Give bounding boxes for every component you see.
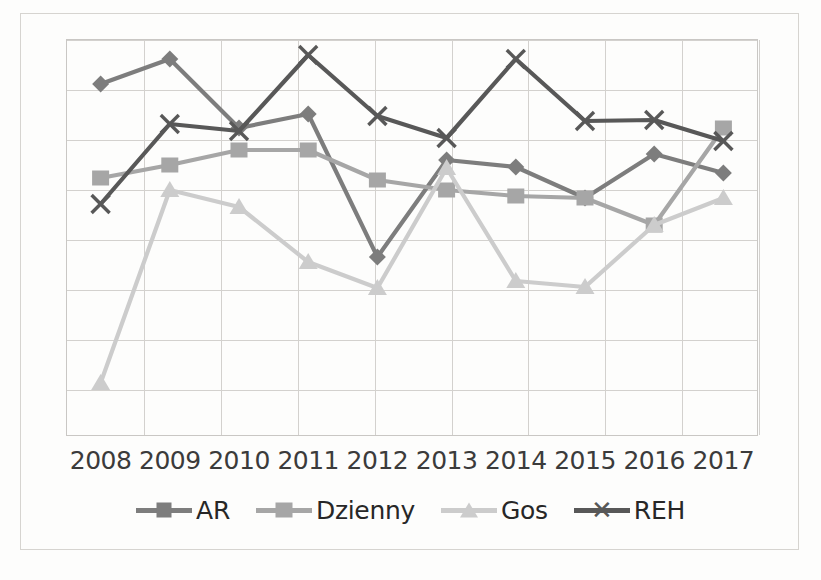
data-point-marker xyxy=(507,159,524,176)
square-marker xyxy=(256,500,312,520)
data-point-marker xyxy=(92,195,110,213)
series-line xyxy=(101,55,724,204)
data-point-marker xyxy=(299,46,317,64)
x-axis-tick-2010: 2010 xyxy=(208,446,270,475)
data-point-marker xyxy=(300,106,317,123)
x-axis-tick-2013: 2013 xyxy=(416,446,478,475)
legend-item-dzienny[interactable]: Dzienny xyxy=(256,496,415,525)
data-point-marker xyxy=(438,183,455,198)
data-point-marker xyxy=(91,374,110,390)
legend-label: Gos xyxy=(501,496,548,525)
data-point-marker xyxy=(577,191,594,206)
data-point-marker xyxy=(160,181,179,197)
data-point-marker xyxy=(92,76,109,93)
data-point-marker xyxy=(161,158,178,173)
legend-label: REH xyxy=(634,496,685,525)
legend-item-gos[interactable]: Gos xyxy=(441,496,548,525)
series-ar xyxy=(92,51,732,266)
series-line xyxy=(101,168,724,383)
data-point-marker xyxy=(715,165,732,182)
legend-label: AR xyxy=(196,496,230,525)
data-point-marker xyxy=(92,171,109,186)
data-point-marker xyxy=(714,189,733,205)
data-point-marker xyxy=(231,143,248,158)
chart-legend: ARDziennyGos✕REH xyxy=(0,492,821,528)
series-gos xyxy=(91,159,733,390)
triangle-marker xyxy=(441,500,497,520)
series-reh xyxy=(92,46,733,213)
x-marker: ✕ xyxy=(574,500,630,520)
data-point-marker xyxy=(507,189,524,204)
data-point-marker xyxy=(300,143,317,158)
x-axis-tick-2017: 2017 xyxy=(693,446,755,475)
series-dzienny xyxy=(92,121,732,233)
x-axis-tick-2009: 2009 xyxy=(139,446,201,475)
diamond-marker xyxy=(136,500,192,520)
legend-label: Dzienny xyxy=(316,496,415,525)
data-point-marker xyxy=(507,50,525,68)
data-point-marker xyxy=(369,173,386,188)
x-axis-tick-2016: 2016 xyxy=(623,446,685,475)
line-chart: 2008200920102011201220132014201520162017… xyxy=(0,0,821,580)
x-axis-tick-2008: 2008 xyxy=(70,446,132,475)
x-axis-tick-2015: 2015 xyxy=(554,446,616,475)
legend-item-ar[interactable]: AR xyxy=(136,496,230,525)
x-axis-tick-2011: 2011 xyxy=(277,446,339,475)
x-axis-tick-2014: 2014 xyxy=(485,446,547,475)
legend-item-reh[interactable]: ✕REH xyxy=(574,496,685,525)
x-axis-tick-2012: 2012 xyxy=(347,446,409,475)
x-axis: 2008200920102011201220132014201520162017 xyxy=(0,446,821,480)
